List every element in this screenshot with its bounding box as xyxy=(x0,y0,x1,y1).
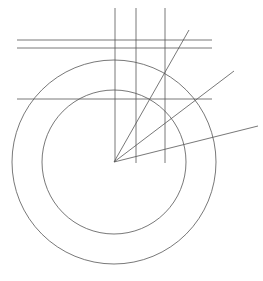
ray-line xyxy=(114,71,234,162)
ray-line xyxy=(114,30,189,162)
geometric-diagram xyxy=(0,0,263,281)
